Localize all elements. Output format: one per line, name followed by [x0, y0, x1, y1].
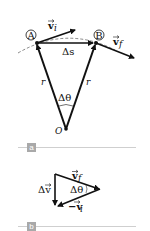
panel-b-divider	[36, 226, 136, 227]
delta-theta-arc-b	[86, 185, 87, 193]
radius-vector-a	[37, 45, 66, 129]
radius-right-label: r	[86, 77, 91, 87]
delta-theta-label: Δθ	[58, 92, 71, 103]
point-b-label: B	[95, 30, 102, 41]
delta-s-label: Δs	[62, 46, 74, 57]
delta-theta-arc	[59, 105, 73, 107]
radius-vector-b	[66, 45, 95, 129]
point-a-label: A	[26, 30, 35, 41]
radius-left-label: r	[41, 77, 46, 87]
panel-a-divider	[36, 147, 136, 148]
panel-a-tag: a	[27, 143, 36, 152]
vf-subscript: f	[118, 39, 124, 49]
neg-vi-subscript: i	[80, 204, 83, 214]
point-b-dot	[94, 41, 98, 45]
delta-theta-label-b: Δθ	[70, 184, 83, 195]
origin-label: O	[55, 126, 63, 136]
panel-b-divider-left	[18, 226, 27, 227]
panel-a-divider-left	[18, 147, 27, 148]
vf-subscript-b: f	[77, 173, 83, 183]
delta-v-label: Δv	[38, 184, 51, 195]
kinematics-diagram: A B v i v f Δs r r Δθ O v f Δv Δθ −v i	[0, 0, 150, 231]
origin-dot	[64, 127, 68, 131]
panel-a-diagram: A B v i v f Δs r r Δθ O	[18, 20, 134, 137]
panel-b-diagram: v f Δv Δθ −v i	[38, 170, 100, 214]
vi-subscript: i	[54, 23, 57, 33]
panel-b-tag: b	[27, 222, 36, 231]
point-a-dot	[35, 41, 39, 45]
